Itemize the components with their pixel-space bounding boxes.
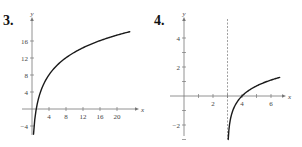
x-tick-label: 2 <box>211 100 215 108</box>
y-tick-label: 4 <box>25 89 29 97</box>
y-tick-label: −4 <box>21 123 29 131</box>
x-tick-label: 6 <box>269 100 273 108</box>
x-axis-arrow-icon <box>282 94 286 98</box>
y-tick-label: −2 <box>173 122 181 130</box>
x-axis-label: x <box>287 93 292 101</box>
x-axis-label: x <box>140 106 145 114</box>
x-tick-label: 4 <box>240 100 244 108</box>
y-tick-label: 4 <box>177 35 181 43</box>
graph-4: xy246−224 <box>151 0 302 147</box>
graph-panel-4: 4. xy246−224 <box>151 0 302 147</box>
y-tick-label: 8 <box>25 72 29 80</box>
x-axis-arrow-icon <box>135 107 139 111</box>
y-axis-label: y <box>30 10 35 18</box>
graph-3: xy48121620−4481216 <box>0 0 151 147</box>
graph-panel-3: 3. xy48121620−4481216 <box>0 0 151 147</box>
x-tick-label: 8 <box>64 113 68 121</box>
y-tick-label: 12 <box>21 55 29 63</box>
y-axis-label: y <box>182 10 187 18</box>
y-tick-label: 16 <box>21 38 29 46</box>
x-tick-label: 20 <box>114 113 122 121</box>
x-tick-label: 12 <box>80 113 88 121</box>
x-tick-label: 16 <box>97 113 105 121</box>
function-curve <box>228 77 279 139</box>
x-tick-label: 4 <box>47 113 51 121</box>
y-tick-label: 2 <box>177 64 181 72</box>
